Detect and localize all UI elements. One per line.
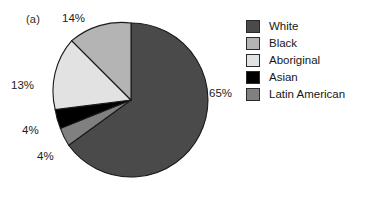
legend-swatch-asian: [246, 71, 260, 84]
legend-item-black: Black: [246, 36, 345, 50]
legend-item-latin-american: Latin American: [246, 87, 345, 101]
legend-item-asian: Asian: [246, 70, 345, 84]
legend-label-asian: Asian: [269, 71, 298, 84]
pie-value-label-asian: 4%: [22, 124, 39, 136]
legend-swatch-black: [246, 37, 260, 50]
legend-label-black: Black: [269, 37, 297, 50]
chart-legend: White Black Aboriginal Asian Latin Ameri…: [246, 19, 345, 101]
legend-label-aboriginal: Aboriginal: [269, 54, 320, 67]
legend-item-white: White: [246, 19, 345, 33]
legend-item-aboriginal: Aboriginal: [246, 53, 345, 67]
legend-swatch-latin-american: [246, 88, 260, 101]
pie-chart-plot-area: [0, 0, 230, 197]
pie-chart-figure: (a) 65% 14% 13% 4% 4% White Black: [0, 0, 371, 197]
pie-value-label-latin-american: 4%: [37, 150, 54, 162]
legend-swatch-aboriginal: [246, 54, 260, 67]
legend-label-white: White: [269, 20, 298, 33]
legend-swatch-white: [246, 20, 260, 33]
pie-value-label-black: 14%: [62, 12, 85, 24]
pie-value-label-aboriginal: 13%: [11, 79, 34, 91]
legend-label-latin-american: Latin American: [269, 88, 345, 101]
pie-chart-svg: [0, 0, 230, 197]
pie-value-label-white: 65%: [209, 87, 232, 99]
